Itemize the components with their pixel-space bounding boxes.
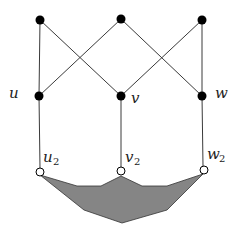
label-v: v [131, 89, 140, 107]
node-top-middle [117, 15, 126, 24]
node-w [198, 92, 207, 101]
label-u2: u [43, 148, 53, 166]
node-u [35, 92, 44, 101]
node-v [117, 92, 126, 101]
node-top-right [198, 16, 207, 25]
label-w2-subscript: 2 [219, 153, 225, 164]
edge-u-u2 [39, 96, 40, 168]
node-w2 [200, 166, 208, 174]
node-v2 [117, 167, 125, 175]
label-w: w [215, 84, 228, 102]
node-u2 [36, 168, 44, 176]
edge-t1-v [40, 20, 121, 96]
label-u: u [9, 84, 19, 102]
graph-diagram: u v w u 2 v 2 w 2 [0, 0, 239, 234]
label-u2-subscript: 2 [53, 156, 59, 167]
edge-t1-u [39, 20, 40, 96]
edge-w-w2 [202, 96, 203, 166]
label-v2: v [125, 148, 134, 166]
node-top-left [36, 16, 45, 25]
shaded-region [40, 174, 203, 223]
label-v2-subscript: 2 [134, 156, 140, 167]
graph-canvas: u v w u 2 v 2 w 2 [0, 0, 239, 234]
